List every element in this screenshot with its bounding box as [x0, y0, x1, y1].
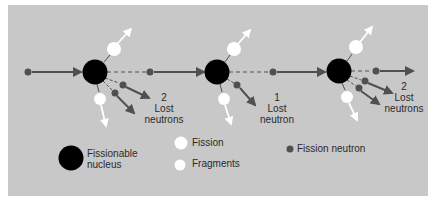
path-dashed [105, 78, 119, 83]
legend-item-nucleus: Fissionable nucleus [59, 146, 139, 171]
legend-label: Fission neutron [297, 143, 365, 154]
fragment-arrow [238, 30, 250, 44]
fission-fragment [218, 93, 230, 105]
fission-neutron [270, 69, 277, 76]
legend: Fissionable nucleus Fission Fragments Fi… [59, 137, 366, 171]
lost-neutron [112, 90, 119, 97]
stage-2: 1 Lost neutron [205, 30, 326, 125]
lost-word: Lost [395, 92, 414, 103]
fragment-link [342, 83, 345, 90]
fragment-link [220, 84, 222, 92]
path-dashed [103, 81, 112, 90]
fissionable-nucleus [327, 59, 352, 84]
legend-label: nucleus [87, 159, 121, 170]
legend-label: Fragments [192, 158, 240, 169]
lost-neutron-arrow [240, 88, 255, 105]
fragment-link [347, 54, 352, 61]
fragment-link [225, 55, 230, 62]
fission-fragment [94, 93, 106, 105]
fissionable-nucleus [205, 60, 230, 85]
lost-count: 1 [274, 92, 280, 103]
fragment-arrow [117, 29, 131, 44]
legend-item-neutron: Fission neutron [287, 143, 366, 154]
fission-fragment [341, 91, 353, 103]
fission-neutron [147, 69, 154, 76]
lost-unit: neutrons [385, 103, 424, 114]
fission-fragment [227, 42, 241, 56]
fragment-arrow [349, 103, 357, 120]
lost-word: Lost [155, 103, 174, 114]
neutron-swatch [287, 146, 294, 153]
lost-neutron [234, 82, 241, 89]
lost-neutron-arrow [117, 96, 134, 113]
path-dashed [350, 76, 361, 80]
legend-label: Fission [192, 137, 224, 148]
fragment-arrow [101, 105, 106, 126]
stage-3: 2 Lost neutrons [327, 27, 424, 120]
lost-neutron-arrow [361, 91, 379, 104]
lost-count: 2 [161, 92, 167, 103]
fissionable-nucleus [83, 60, 108, 85]
neutron-dot [25, 69, 32, 76]
legend-item-fragments: Fission Fragments [175, 137, 240, 171]
fragment-swatch [175, 160, 186, 171]
fragment-arrow [225, 105, 231, 124]
fragment-arrow [360, 27, 372, 42]
nucleus-swatch [59, 146, 84, 171]
fragment-swatch [175, 137, 188, 150]
lost-word: Lost [268, 103, 287, 114]
lost-neutron [356, 85, 363, 92]
fission-chain-diagram: 2 Lost neutrons 1 Lost neutron [0, 0, 436, 202]
fission-fragment [349, 40, 363, 54]
incoming-neutron [25, 69, 82, 76]
lost-neutron [362, 78, 369, 85]
fragment-link [97, 84, 99, 92]
fission-fragment [107, 42, 121, 56]
legend-label: Fissionable [87, 148, 138, 159]
lost-unit: neutrons [145, 114, 184, 125]
lost-neutron-arrow [368, 83, 392, 93]
stage-1: 2 Lost neutrons [83, 29, 205, 126]
fragment-link [104, 55, 110, 62]
lost-count: 2 [401, 81, 407, 92]
lost-neutron [120, 82, 127, 89]
path-dashed [227, 79, 234, 83]
lost-neutron-arrow [126, 87, 149, 98]
fission-neutron [373, 68, 380, 75]
lost-unit: neutron [260, 114, 294, 125]
path-dashed [347, 80, 356, 86]
